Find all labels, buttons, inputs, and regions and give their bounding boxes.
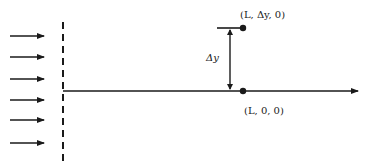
- origin-point-label: (L, 0, 0): [244, 106, 284, 116]
- flow-arrows: [10, 36, 44, 143]
- offset-point-dot: [240, 25, 246, 31]
- origin-point-dot: [240, 88, 246, 94]
- dimension-label: Δy: [206, 53, 219, 63]
- offset-point-label: (L, Δy, 0): [240, 10, 285, 20]
- diagram-canvas: [0, 0, 375, 162]
